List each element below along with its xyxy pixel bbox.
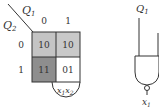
- gate-output-label: x1: [142, 97, 151, 108]
- row-label-0: 0: [18, 40, 24, 50]
- kmap-value-r1c0: 11: [38, 65, 49, 75]
- kmap-value-r0c1: 10: [62, 40, 74, 50]
- gate-inversion-bubble-icon: [145, 86, 150, 91]
- col-label-1: 1: [65, 16, 71, 26]
- gate-body: [135, 56, 159, 85]
- loop-output-label: x1x2: [57, 86, 74, 96]
- nand-gate-diagram: Q1 x1: [135, 3, 159, 108]
- gate-input-label: Q1: [136, 3, 149, 16]
- row-variable-label: Q2: [3, 19, 17, 33]
- kmap-value-r0c0: 10: [38, 40, 50, 50]
- karnaugh-map-diagram: Q1 Q2 0 1 0 1 10 10 11 01 x1x2 Q1 x1: [0, 0, 159, 111]
- col-variable-label: Q1: [22, 4, 36, 18]
- kmap-value-r1c1: 01: [62, 65, 73, 75]
- col-label-0: 0: [41, 16, 47, 26]
- row-label-1: 1: [18, 65, 24, 75]
